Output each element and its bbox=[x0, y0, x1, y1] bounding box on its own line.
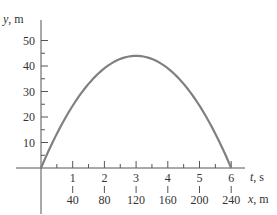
y-tick-label: 40 bbox=[23, 59, 35, 73]
x-tick-label: 2 bbox=[101, 171, 107, 185]
y-tick-label: 50 bbox=[23, 34, 35, 48]
x2-tick-label: 40 bbox=[67, 193, 79, 207]
x2-tick-label: 80 bbox=[98, 193, 110, 207]
x2-tick-label: 160 bbox=[159, 193, 177, 207]
trajectory-line bbox=[41, 56, 231, 168]
y-tick-label: 30 bbox=[23, 85, 35, 99]
x-tick-label: 1 bbox=[70, 171, 76, 185]
projectile-chart: 10203040501402803120416052006240 y, m t,… bbox=[0, 0, 277, 215]
axes: 10203040501402803120416052006240 bbox=[16, 20, 245, 214]
x-tick-label: 4 bbox=[165, 171, 171, 185]
x-axis-label-time: t, s bbox=[250, 170, 264, 184]
x-tick-label: 6 bbox=[228, 171, 234, 185]
y-tick-label: 20 bbox=[23, 110, 35, 124]
x-tick-label: 5 bbox=[197, 171, 203, 185]
x2-tick-label: 120 bbox=[127, 193, 145, 207]
x-axis-label-distance: x, m bbox=[247, 192, 269, 206]
x-tick-label: 3 bbox=[133, 171, 139, 185]
y-tick-label: 10 bbox=[23, 136, 35, 150]
x2-tick-label: 240 bbox=[222, 193, 240, 207]
marks bbox=[41, 56, 231, 168]
y-axis-label: y, m bbox=[2, 12, 24, 26]
x2-tick-label: 200 bbox=[191, 193, 209, 207]
